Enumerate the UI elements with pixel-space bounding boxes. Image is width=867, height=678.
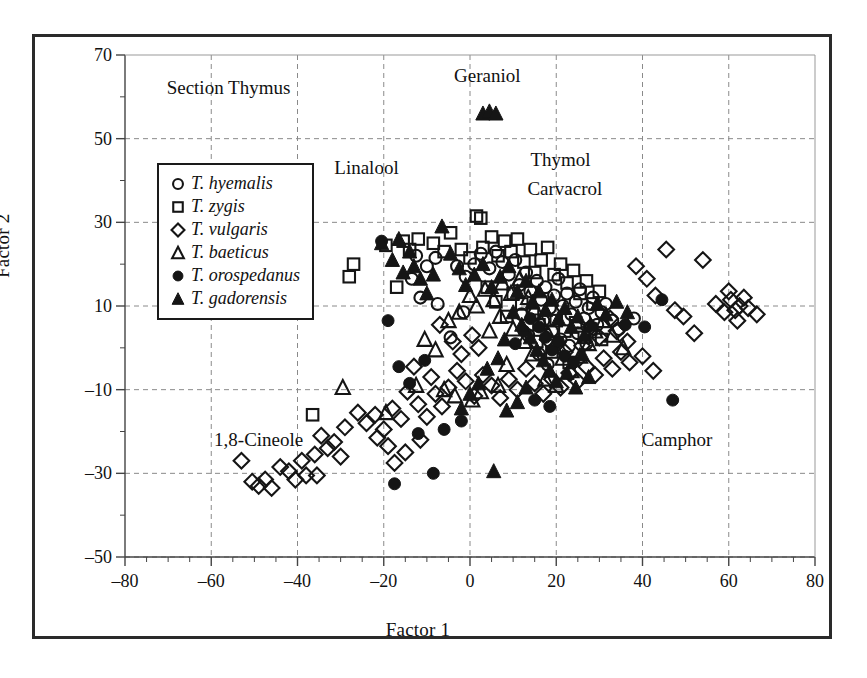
data-point-filled-triangle (435, 219, 449, 233)
legend: T. hyemalisT. zygisT. vulgarisT. baeticu… (157, 163, 314, 320)
data-point-filled-circle (427, 467, 439, 479)
chart-annotation: 1,8-Cineole (214, 429, 303, 451)
data-point-open-triangle (336, 380, 350, 394)
data-point-filled-triangle (172, 292, 184, 304)
chart-annotation: Carvacrol (527, 178, 602, 200)
data-point-filled-circle (393, 361, 405, 373)
x-tick-label: 60 (720, 571, 738, 592)
data-point-filled-circle (382, 315, 394, 327)
filled-circle-icon (168, 267, 188, 285)
data-point-open-diamond (667, 302, 683, 318)
data-point-open-diamond (337, 419, 353, 435)
y-tick-label: 50 (60, 128, 112, 149)
data-point-filled-circle (639, 321, 651, 333)
data-point-open-circle (552, 273, 564, 285)
legend-label: T. vulgaris (188, 219, 268, 240)
data-point-filled-circle (529, 394, 541, 406)
data-point-filled-triangle (385, 252, 399, 266)
chart-annotation: Camphor (642, 429, 713, 451)
data-point-filled-triangle (487, 464, 501, 478)
data-point-filled-circle (619, 319, 631, 331)
legend-item-t--vulgaris[interactable]: T. vulgaris (168, 218, 300, 241)
data-point-filled-circle (419, 354, 431, 366)
data-point-filled-triangle (426, 267, 440, 281)
x-tick-label: 80 (806, 571, 824, 592)
data-point-open-diamond (695, 252, 711, 268)
data-point-open-diamond (645, 363, 661, 379)
data-point-open-square (542, 242, 554, 254)
data-point-open-diamond (454, 346, 470, 362)
x-tick-label: –80 (112, 571, 139, 592)
legend-item-t--gadorensis[interactable]: T. gadorensis (168, 287, 300, 310)
data-point-filled-triangle (510, 395, 524, 409)
legend-label: T. zygis (188, 196, 245, 217)
data-point-open-diamond (676, 309, 692, 325)
y-tick-label: 10 (60, 296, 112, 317)
legend-label: T. hyemalis (188, 173, 273, 194)
chart-annotation: Thymol (530, 149, 590, 171)
x-tick-label: 0 (466, 571, 475, 592)
data-point-filled-circle (389, 478, 401, 490)
data-point-open-diamond (639, 271, 655, 287)
data-point-open-triangle (487, 292, 501, 306)
data-point-open-triangle (469, 298, 483, 312)
open-circle-icon (168, 175, 188, 193)
data-point-filled-circle (412, 428, 424, 440)
data-point-filled-circle (509, 338, 521, 350)
x-tick-label: 40 (634, 571, 652, 592)
data-point-filled-circle (552, 336, 564, 348)
open-square-icon (168, 198, 188, 216)
chart-annotation: Geraniol (454, 65, 520, 87)
data-point-open-diamond (234, 453, 250, 469)
x-tick-label: –60 (198, 571, 225, 592)
data-point-filled-circle (656, 294, 668, 306)
y-tick-label: –10 (60, 379, 112, 400)
data-point-open-square (173, 202, 183, 212)
data-point-open-circle (173, 179, 183, 189)
legend-label: T. orospedanus (188, 265, 300, 286)
data-point-open-square (307, 409, 319, 421)
series-t--gadorensis (374, 104, 634, 478)
data-point-filled-circle (404, 377, 416, 389)
legend-item-t--baeticus[interactable]: T. baeticus (168, 241, 300, 264)
data-point-open-square (348, 258, 360, 270)
y-tick-label: 70 (60, 45, 112, 66)
x-tick-label: –40 (284, 571, 311, 592)
x-axis-title: Factor 1 (386, 619, 450, 641)
data-point-open-diamond (309, 468, 325, 484)
data-point-filled-triangle (392, 231, 406, 245)
data-point-open-diamond (172, 223, 185, 236)
data-point-open-diamond (658, 242, 674, 258)
data-point-open-diamond (686, 325, 702, 341)
legend-item-t--zygis[interactable]: T. zygis (168, 195, 300, 218)
data-point-open-diamond (423, 369, 439, 385)
data-point-open-diamond (708, 296, 724, 312)
legend-label: T. baeticus (188, 242, 269, 263)
data-point-open-triangle (172, 246, 184, 258)
chart-annotation: Linalool (334, 157, 398, 179)
data-point-filled-triangle (491, 351, 505, 365)
chart-annotation: Section Thymus (167, 77, 291, 99)
data-point-open-triangle (482, 324, 496, 338)
scatter-plot-figure: Factor 2 Factor 1 T. hyemalisT. zygisT. … (0, 0, 867, 678)
legend-item-t--hyemalis[interactable]: T. hyemalis (168, 172, 300, 195)
data-point-filled-circle (173, 271, 183, 281)
y-tick-label: –50 (60, 547, 112, 568)
data-point-open-square (344, 271, 356, 283)
y-tick-label: –30 (60, 463, 112, 484)
data-point-filled-circle (533, 321, 545, 333)
data-point-open-diamond (397, 445, 413, 461)
data-point-open-diamond (749, 307, 765, 323)
data-point-open-diamond (628, 258, 644, 274)
y-tick-label: 30 (60, 212, 112, 233)
legend-item-t--orospedanus[interactable]: T. orospedanus (168, 264, 300, 287)
data-point-open-diamond (333, 449, 349, 465)
data-point-filled-circle (544, 400, 556, 412)
open-diamond-icon (168, 221, 188, 239)
data-point-filled-triangle (497, 332, 511, 346)
data-point-open-square (391, 281, 403, 293)
x-tick-label: –20 (370, 571, 397, 592)
data-point-filled-circle (667, 394, 679, 406)
data-point-filled-circle (438, 423, 450, 435)
data-point-open-diamond (419, 409, 435, 425)
